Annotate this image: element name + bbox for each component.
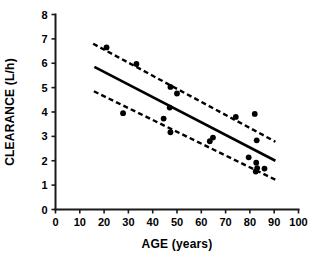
y-tick-label-7: 7: [41, 33, 47, 45]
x-tick-label-80: 80: [244, 216, 256, 228]
y-tick-label-6: 6: [41, 57, 47, 69]
y-tick-label-1: 1: [41, 179, 47, 191]
x-axis-tick-labels: 0102030405060708090100: [52, 216, 307, 228]
x-tick-label-10: 10: [74, 216, 86, 228]
x-tick-label-0: 0: [52, 216, 58, 228]
x-tick-label-60: 60: [195, 216, 207, 228]
lower-confidence-band: [94, 91, 276, 179]
y-tick-label-2: 2: [41, 155, 47, 167]
y-axis-title: CLEARANCE (L/h): [3, 58, 17, 166]
data-point: [174, 91, 180, 97]
chart-figure: 012345678 0102030405060708090100 AGE (ye…: [0, 0, 319, 259]
x-tick-label-40: 40: [147, 216, 159, 228]
scatter-plot: 012345678 0102030405060708090100 AGE (ye…: [0, 0, 319, 259]
data-point: [161, 116, 167, 122]
data-point: [207, 138, 213, 144]
data-point: [233, 114, 239, 120]
data-points: [104, 45, 268, 175]
x-tick-label-70: 70: [219, 216, 231, 228]
x-tick-label-50: 50: [171, 216, 183, 228]
data-point: [254, 137, 260, 143]
data-point: [246, 154, 252, 160]
y-tick-label-0: 0: [41, 204, 47, 216]
y-tick-label-8: 8: [41, 9, 47, 21]
y-tick-label-5: 5: [41, 82, 47, 94]
axis-spines: [56, 15, 299, 210]
data-point: [104, 45, 110, 51]
x-tick-label-30: 30: [122, 216, 134, 228]
data-point: [167, 105, 173, 111]
x-tick-label-20: 20: [98, 216, 110, 228]
data-point: [120, 110, 126, 116]
upper-confidence-band: [93, 44, 275, 142]
data-point: [168, 129, 174, 135]
y-axis-tick-labels: 012345678: [41, 9, 48, 216]
y-tick-label-4: 4: [41, 106, 48, 118]
data-point: [253, 160, 259, 166]
data-point: [262, 166, 268, 172]
x-tick-label-90: 90: [268, 216, 280, 228]
x-axis-title: AGE (years): [142, 237, 213, 251]
data-point: [252, 111, 258, 117]
y-tick-label-3: 3: [41, 130, 47, 142]
x-tick-label-100: 100: [289, 216, 307, 228]
data-point: [253, 169, 259, 175]
data-point: [168, 84, 174, 90]
data-point: [134, 61, 140, 67]
